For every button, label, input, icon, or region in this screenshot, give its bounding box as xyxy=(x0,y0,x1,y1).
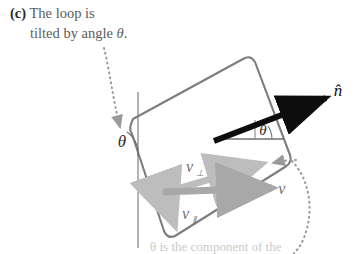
dotted-leader-caption xyxy=(104,48,120,127)
figure-container: (c) The loop is tilted by angle θ. xyxy=(0,0,356,254)
velocity-perpendicular-label-subscript: ⊥ xyxy=(196,168,204,178)
bottom-cutoff-text: θ is the component of the xyxy=(150,239,356,254)
angle-label-left: θ xyxy=(118,132,126,151)
angle-arc-right xyxy=(268,126,272,139)
velocity-parallel-arrow xyxy=(163,193,175,226)
normal-vector-label: n̂ xyxy=(334,81,343,100)
velocity-parallel-label-base: v xyxy=(182,205,190,222)
velocity-vector-label: v⃗ xyxy=(278,180,298,197)
velocity-vector-arrow xyxy=(163,188,272,192)
velocity-parallel-label-subscript: ∥ xyxy=(192,215,198,225)
figure-diagram: n̂ v⃗ v ⊥ v ∥ θ θ xyxy=(0,0,356,254)
velocity-perpendicular-label-base: v xyxy=(186,158,194,175)
current-loop xyxy=(130,57,291,236)
angle-label-right: θ xyxy=(259,122,267,138)
